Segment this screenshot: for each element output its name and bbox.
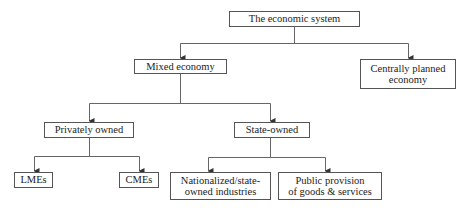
node-label-line-1: Public provision xyxy=(295,175,364,187)
node-label: State-owned xyxy=(246,124,299,136)
node-label: CMEs xyxy=(126,174,153,186)
node-cmes: CMEs xyxy=(119,172,159,188)
node-label: The economic system xyxy=(249,13,341,25)
node-lmes: LMEs xyxy=(14,172,53,188)
node-label-line-1: Nationalized/state- xyxy=(181,175,260,187)
node-label-line-1: Centrally planned xyxy=(371,63,446,75)
node-label-line-2: owned industries xyxy=(185,186,256,198)
node-economic-system: The economic system xyxy=(229,11,360,27)
node-label-line-2: of goods & services xyxy=(288,186,372,198)
node-mixed-economy: Mixed economy xyxy=(134,59,227,74)
node-label: Mixed economy xyxy=(146,61,215,73)
node-label: Privately owned xyxy=(55,124,124,136)
node-nationalized-industries: Nationalized/state- owned industries xyxy=(170,172,271,200)
node-public-provision: Public provision of goods & services xyxy=(278,172,382,200)
node-state-owned: State-owned xyxy=(234,122,310,138)
node-centrally-planned-economy: Centrally planned economy xyxy=(360,59,456,89)
node-privately-owned: Privately owned xyxy=(44,122,134,138)
node-label-line-2: economy xyxy=(389,74,428,86)
node-label: LMEs xyxy=(20,174,46,186)
